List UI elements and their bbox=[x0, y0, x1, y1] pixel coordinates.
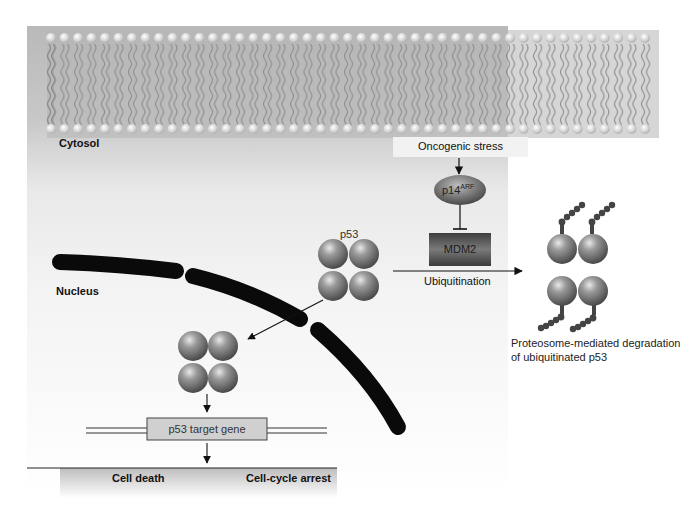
degradation-caption-line1: Proteosome-mediated degradation bbox=[511, 337, 680, 349]
cytosol-label: Cytosol bbox=[59, 137, 99, 149]
p53-tetramer-nucleus bbox=[178, 331, 238, 393]
p14arf-base: p14 bbox=[442, 184, 460, 196]
p53-tetramer-cytosol bbox=[318, 239, 379, 301]
cell-death-label: Cell death bbox=[112, 472, 165, 484]
p14arf-superscript: ARF bbox=[460, 183, 474, 190]
p53-label: p53 bbox=[340, 228, 358, 240]
cell-cycle-arrest-label: Cell-cycle arrest bbox=[246, 472, 331, 484]
lipid-bilayer-membrane bbox=[0, 0, 659, 138]
oncogenic-stress-label: Oncogenic stress bbox=[393, 140, 528, 152]
diagram-canvas bbox=[0, 0, 700, 510]
ubiquitinated-p53 bbox=[538, 202, 615, 332]
mdm2-label: MDM2 bbox=[429, 243, 491, 255]
target-gene-label: p53 target gene bbox=[147, 423, 267, 435]
nucleus-label: Nucleus bbox=[56, 285, 99, 297]
p14arf-label: p14ARF bbox=[442, 183, 474, 196]
ubiquitination-label: Ubiquitination bbox=[424, 275, 491, 287]
degradation-caption-line2: of ubiquitinated p53 bbox=[511, 351, 607, 363]
